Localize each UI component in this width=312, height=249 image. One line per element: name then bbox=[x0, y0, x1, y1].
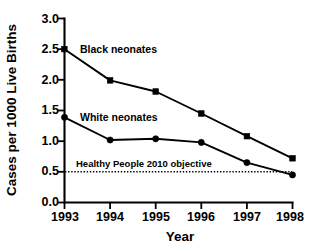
y-tick-label: 1.0 bbox=[42, 134, 59, 148]
y-axis-tick-labels: 3.0 2.5 2.0 1.5 1.0 0.5 0.0 bbox=[42, 12, 59, 209]
data-point bbox=[153, 136, 159, 142]
x-tick-label: 1993 bbox=[51, 210, 79, 224]
data-point bbox=[107, 78, 113, 84]
data-point bbox=[153, 89, 159, 95]
series-black-neonates: Black neonates bbox=[62, 43, 296, 161]
data-point bbox=[61, 114, 67, 120]
x-tick-label: 1994 bbox=[96, 210, 124, 224]
data-point bbox=[107, 137, 113, 143]
reference-line-label: Healthy People 2010 objective bbox=[76, 158, 212, 169]
data-point bbox=[244, 133, 250, 139]
y-tick-label: 3.0 bbox=[42, 12, 59, 26]
series-label-black-neonates: Black neonates bbox=[80, 43, 157, 55]
series-line-black-neonates bbox=[65, 49, 293, 158]
data-point bbox=[289, 172, 295, 178]
x-tick-label: 1995 bbox=[142, 210, 170, 224]
x-axis-title: Year bbox=[166, 229, 195, 244]
chart-figure: Cases per 1000 Live Births 3.0 2.5 2.0 1… bbox=[0, 0, 312, 249]
y-axis-title: Cases per 1000 Live Births bbox=[4, 24, 19, 196]
data-point bbox=[199, 111, 205, 117]
y-tick-label: 2.5 bbox=[42, 42, 59, 56]
y-tick-label: 1.5 bbox=[42, 103, 59, 117]
line-chart: Cases per 1000 Live Births 3.0 2.5 2.0 1… bbox=[0, 0, 312, 249]
data-point bbox=[62, 46, 68, 52]
y-tick-label: 2.0 bbox=[42, 73, 59, 87]
data-point bbox=[198, 139, 204, 145]
y-tick-label: 0.5 bbox=[42, 164, 59, 178]
x-tick-label: 1997 bbox=[233, 210, 261, 224]
x-tick-label: 1998 bbox=[276, 210, 304, 224]
series-label-white-neonates: White neonates bbox=[80, 111, 158, 123]
x-tick-label: 1996 bbox=[187, 210, 215, 224]
x-axis-tick-labels: 1993 1994 1995 1996 1997 1998 bbox=[51, 210, 304, 224]
data-point bbox=[290, 156, 296, 162]
data-point bbox=[244, 160, 250, 166]
y-tick-label: 0.0 bbox=[42, 195, 59, 209]
